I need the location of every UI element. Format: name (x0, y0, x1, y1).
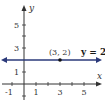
point-3-2 (58, 58, 62, 62)
x-tick-label: 5 (81, 88, 86, 97)
equation-label: y = 2 (80, 47, 105, 57)
x-axis-label: x (97, 71, 102, 81)
y-tick-label: 5 (14, 21, 19, 30)
line-right-arrow-icon (96, 57, 102, 63)
y-tick-label: 3 (14, 44, 19, 53)
x-tick-label: 3 (57, 88, 62, 97)
y-axis-arrow-icon (22, 5, 27, 11)
line-left-arrow-icon (1, 57, 7, 63)
x-axis-arrow-icon (96, 82, 102, 87)
x-tick-label: -1 (5, 88, 13, 97)
y-axis-label: y (28, 3, 35, 13)
graph: -1 1 3 5 1 3 5 y x (3, 2) y = 2 (0, 0, 105, 103)
point-label: (3, 2) (49, 48, 71, 57)
y-tick-label: 1 (14, 68, 19, 77)
x-tick-label: 1 (33, 88, 38, 97)
